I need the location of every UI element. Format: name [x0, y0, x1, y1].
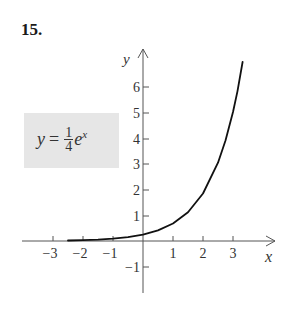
svg-text:3: 3: [133, 157, 140, 172]
svg-text:3: 3: [230, 246, 237, 261]
svg-text:6: 6: [133, 80, 140, 95]
svg-text:1: 1: [133, 209, 140, 224]
svg-text:−3: −3: [43, 246, 58, 261]
y-tick-labels: 6 5 4 3 2 1 −1: [125, 80, 140, 275]
svg-text:2: 2: [200, 246, 207, 261]
svg-text:−1: −1: [103, 246, 118, 261]
exponential-curve: [68, 62, 243, 241]
y-ticks: [143, 87, 149, 267]
svg-text:2: 2: [133, 183, 140, 198]
svg-text:−2: −2: [73, 246, 88, 261]
svg-text:−1: −1: [125, 260, 140, 275]
svg-text:4: 4: [133, 132, 140, 147]
x-axis-label: x: [264, 248, 272, 265]
x-tick-labels: −3 −2 −1 1 2 3: [43, 246, 237, 261]
y-axis-label: y: [121, 51, 130, 67]
svg-text:5: 5: [133, 106, 140, 121]
svg-text:1: 1: [170, 246, 177, 261]
chart: −3 −2 −1 1 2 3 6 5 4 3 2 1 −1 y x: [0, 0, 287, 312]
